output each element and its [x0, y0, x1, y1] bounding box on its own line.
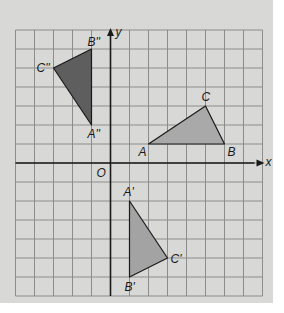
vertex-label: C' — [171, 252, 183, 266]
x-axis-arrow-icon — [257, 160, 265, 167]
vertex-label: B' — [125, 280, 136, 294]
x-axis-label: x — [265, 155, 273, 169]
origin-label: O — [97, 166, 106, 180]
vertex-label: C — [202, 90, 211, 104]
y-axis-arrow-icon — [107, 28, 114, 36]
vertex-label: A' — [123, 185, 135, 199]
vertex-label: B — [228, 145, 236, 159]
vertex-label: A — [138, 145, 147, 159]
y-axis-label: y — [115, 25, 123, 39]
vertex-label: B'' — [88, 35, 101, 49]
coordinate-grid-figure: x y O ABCA'B'C'A''B''C'' — [0, 0, 284, 313]
vertex-label: A'' — [87, 127, 101, 141]
vertex-label: C'' — [37, 61, 51, 75]
